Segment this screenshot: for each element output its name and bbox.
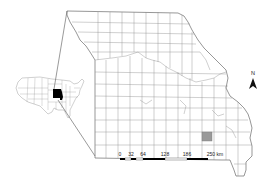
north-label: N bbox=[251, 70, 255, 76]
missouri-outline bbox=[67, 11, 252, 176]
us-outline bbox=[16, 77, 84, 118]
scale-tick-64: 64 bbox=[140, 151, 146, 157]
scale-bar: 0 32 64 128 186 250 km bbox=[119, 151, 224, 160]
scale-tick-128: 128 bbox=[161, 151, 170, 157]
scale-tick-250: 250 km bbox=[207, 151, 223, 157]
missouri-county-map bbox=[67, 11, 252, 176]
map-figure: N 0 32 64 128 186 250 km bbox=[0, 0, 278, 184]
scale-tick-32: 32 bbox=[128, 151, 134, 157]
us-inset-map bbox=[16, 77, 84, 118]
scale-tick-0: 0 bbox=[119, 151, 122, 157]
highlighted-county bbox=[202, 132, 212, 141]
north-arrow-icon bbox=[249, 78, 257, 89]
scale-tick-186: 186 bbox=[183, 151, 192, 157]
north-arrow: N bbox=[249, 70, 257, 89]
